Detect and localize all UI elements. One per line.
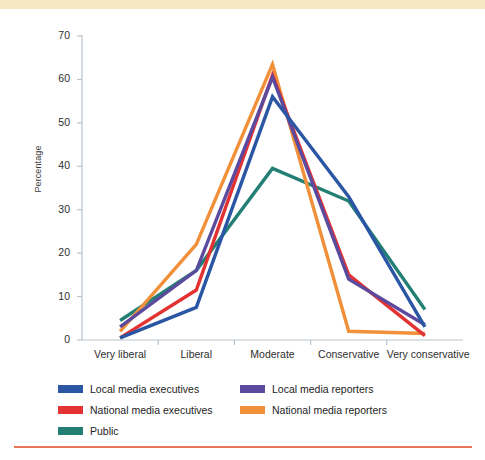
- legend-label: Public: [90, 425, 119, 437]
- top-decorative-band: [0, 0, 485, 9]
- legend-swatch-icon: [240, 385, 265, 393]
- legend-item[interactable]: National media reporters: [240, 401, 387, 419]
- legend-label: National media executives: [90, 404, 213, 416]
- legend-item[interactable]: Local media reporters: [240, 380, 387, 398]
- legend-label: Local media reporters: [272, 383, 374, 395]
- chart-page: Percentage 010203040506070 Very liberalL…: [0, 0, 485, 460]
- bottom-divider-rule: [14, 446, 472, 448]
- legend-item[interactable]: National media executives: [58, 401, 213, 419]
- legend-item[interactable]: Local media executives: [58, 380, 213, 398]
- legend-column-right: Local media reportersNational media repo…: [240, 380, 387, 422]
- line-plot: [0, 9, 485, 379]
- legend-swatch-icon: [58, 427, 83, 435]
- legend-label: Local media executives: [90, 383, 199, 395]
- legend-swatch-icon: [58, 406, 83, 414]
- legend-item[interactable]: Public: [58, 422, 213, 440]
- legend-swatch-icon: [240, 406, 265, 414]
- chart-container: Percentage 010203040506070 Very liberalL…: [0, 9, 485, 446]
- legend-swatch-icon: [58, 385, 83, 393]
- legend-column-left: Local media executivesNational media exe…: [58, 380, 213, 443]
- legend-label: National media reporters: [272, 404, 387, 416]
